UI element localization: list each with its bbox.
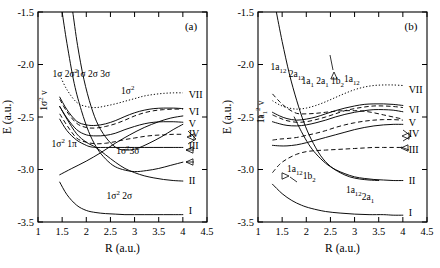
curve-index-I: I: [189, 205, 192, 216]
lbl-b-4: 1a121b2: [287, 164, 316, 183]
curve-index-V: V: [189, 118, 197, 129]
y-axis-title: E (a.u.): [221, 100, 234, 134]
arrowhead-6: [282, 173, 289, 179]
lbl-a-6: 1σ2 2σ: [107, 189, 133, 201]
y-tick-label: -3.5: [17, 217, 34, 228]
x-tick-label: 4: [400, 226, 406, 237]
y-tick-label: -3.5: [237, 217, 254, 228]
x-tick-label: 4: [180, 226, 186, 237]
curve-vii-dashed-branch: [272, 94, 402, 119]
curve-v: [272, 110, 402, 126]
curve-index-IV: IV: [409, 128, 420, 139]
rotated-config-label: 1σ2 v: [37, 90, 49, 111]
curve-index-II: II: [189, 175, 196, 186]
curve-index-VII: VII: [189, 89, 203, 100]
lbl-a-4: 1σ2 1π: [52, 137, 77, 149]
y-tick-label: -3.0: [237, 164, 254, 175]
curve-index-III: III: [189, 140, 199, 151]
x-tick-label: 3.5: [372, 226, 385, 237]
leader-1a1sq-1b2: [290, 177, 297, 182]
curve-vi-dashed: [60, 99, 183, 128]
figure-container: 11.522.533.544.5-1.5-2.0-2.5-3.0-3.5R (a…: [0, 0, 440, 268]
curve-vii: [272, 85, 402, 109]
lbl-a-2: 1σ 2σ 3σ: [76, 69, 110, 79]
curve-index-I: I: [409, 207, 412, 218]
lbl-a-3: 1σ2: [121, 84, 135, 96]
curves-group: [272, 12, 402, 215]
panel-b: 11.522.533.544.5-1.5-2.0-2.5-3.0-3.5R (a…: [221, 7, 434, 255]
curve-i: [272, 184, 402, 215]
curve-index-II: II: [409, 175, 416, 186]
lbl-b-5: 1a122a1: [346, 185, 374, 204]
panel-tag: (a): [185, 20, 198, 33]
y-tick-label: -1.5: [237, 7, 254, 18]
curve-index-V: V: [409, 117, 417, 128]
curve-repulsive-2: [73, 12, 183, 150]
curve-iv-dashdot: [272, 120, 402, 141]
panel-tag: (b): [405, 20, 418, 33]
lbl-b-1: 1a12 2a12: [271, 62, 306, 81]
x-tick-label: 1.5: [56, 226, 69, 237]
energy-curves-figure: 11.522.533.544.5-1.5-2.0-2.5-3.0-3.5R (a…: [0, 0, 440, 268]
curve-vi: [272, 104, 402, 120]
x-tick-label: 2: [304, 226, 309, 237]
x-tick-label: 4.5: [200, 226, 213, 237]
rotated-config-label: 1a12 v: [254, 100, 268, 123]
x-tick-label: 1.5: [276, 226, 289, 237]
y-tick-label: -2.5: [17, 112, 34, 123]
y-tick-label: -1.5: [17, 7, 34, 18]
curve-iv: [272, 124, 402, 146]
y-tick-label: -2.0: [17, 59, 34, 70]
x-tick-label: 1: [255, 226, 260, 237]
curve-index-III: III: [409, 144, 419, 155]
x-tick-label: 1: [35, 226, 40, 237]
x-axis-title: R (a.u.): [105, 242, 140, 255]
y-tick-label: -2.5: [237, 112, 254, 123]
curve-repulsive-1: [276, 12, 378, 181]
leader-1a1-2a1-1b2: [330, 55, 333, 70]
x-tick-label: 2.5: [104, 226, 117, 237]
curve-iii: [60, 119, 183, 147]
curves-group: [60, 12, 183, 215]
x-tick-label: 3: [132, 226, 137, 237]
x-tick-label: 3.5: [152, 226, 165, 237]
y-tick-label: -3.0: [17, 164, 34, 175]
x-tick-label: 3: [352, 226, 357, 237]
x-tick-label: 2: [84, 226, 89, 237]
curve-index-VI: VI: [409, 104, 420, 115]
curve-index-VII: VII: [409, 84, 423, 95]
lbl-b-3: 1a12: [344, 74, 360, 86]
y-axis-title: E (a.u.): [1, 100, 14, 134]
curve-index-VI: VI: [189, 106, 200, 117]
x-tick-label: 2.5: [324, 226, 337, 237]
panel-a: 11.522.533.544.5-1.5-2.0-2.5-3.0-3.5R (a…: [1, 7, 214, 255]
x-tick-label: 4.5: [420, 226, 433, 237]
y-tick-label: -2.0: [237, 59, 254, 70]
x-axis-title: R (a.u.): [325, 242, 360, 255]
lbl-a-5: 1σ23σ: [116, 144, 139, 156]
lbl-b-2: 1a1 2a1 1b2: [301, 76, 344, 88]
